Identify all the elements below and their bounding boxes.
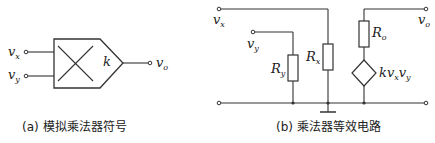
vx-terminal xyxy=(217,7,221,11)
vx-label: vx xyxy=(213,12,225,29)
output-vo-label: vo xyxy=(156,55,168,72)
ro-label: Ro xyxy=(371,25,387,42)
rx-label: Rx xyxy=(305,49,321,66)
vy-terminal xyxy=(251,30,255,34)
ground-right-terminal xyxy=(424,101,428,105)
junction-dot xyxy=(362,101,365,104)
output-terminal xyxy=(148,61,152,65)
multiplier-symbol: vx vy k vo xyxy=(8,39,168,88)
input-vx-terminal xyxy=(24,50,28,54)
resistor-ry xyxy=(288,55,298,81)
input-vy-label: vy xyxy=(8,67,20,84)
junction-dot xyxy=(326,101,329,104)
ry-label: Ry xyxy=(270,61,286,78)
caption-a: (a) 模拟乘法器符号 xyxy=(22,119,127,134)
dependent-source-icon xyxy=(352,60,376,86)
vy-label: vy xyxy=(247,36,259,53)
vo-terminal xyxy=(424,7,428,11)
resistor-ro xyxy=(359,21,369,47)
resistor-rx xyxy=(323,44,333,70)
vo-label: vo xyxy=(418,12,430,29)
equivalent-circuit: vx vy Ry Rx vo Ro kvxvy xyxy=(213,7,430,112)
multiplier-figure: vx vy k vo (a) 模拟乘法器符号 vx vy Ry xyxy=(0,0,435,143)
multiplier-body xyxy=(54,39,123,88)
input-vy-terminal xyxy=(24,74,28,78)
ground-left-terminal xyxy=(217,101,221,105)
gain-label: k xyxy=(103,54,111,69)
caption-b: (b) 乘法器等效电路 xyxy=(276,119,381,134)
source-label: kvxvy xyxy=(379,65,411,82)
input-vx-label: vx xyxy=(8,44,20,61)
junction-dot xyxy=(291,101,294,104)
